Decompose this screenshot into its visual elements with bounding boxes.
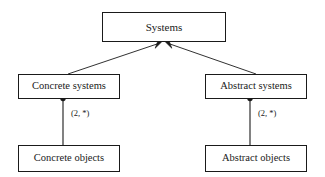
multiplicity-label-concrete: (2, *) <box>71 108 89 118</box>
class-node-label: Abstract systems <box>220 81 291 92</box>
class-node-concrete-systems[interactable]: Concrete systems <box>18 74 120 99</box>
arrowhead-icon-concrete-systems <box>155 41 161 48</box>
class-node-abstract-objects[interactable]: Abstract objects <box>205 145 307 172</box>
arrowhead-icon-abstract-systems <box>166 41 172 48</box>
generalization-edge-abstract-systems <box>169 44 257 75</box>
class-node-label: Concrete objects <box>34 153 104 164</box>
uml-class-diagram: Systems Concrete systems Abstract system… <box>0 0 325 177</box>
class-node-concrete-objects[interactable]: Concrete objects <box>18 145 120 172</box>
class-node-systems[interactable]: Systems <box>102 12 226 42</box>
class-node-label: Systems <box>146 22 183 33</box>
multiplicity-label-abstract: (2, *) <box>258 108 276 118</box>
class-node-label: Abstract objects <box>222 153 290 164</box>
generalization-edge-concrete-systems <box>68 44 159 75</box>
class-node-label: Concrete systems <box>32 81 106 92</box>
class-node-abstract-systems[interactable]: Abstract systems <box>205 74 307 99</box>
